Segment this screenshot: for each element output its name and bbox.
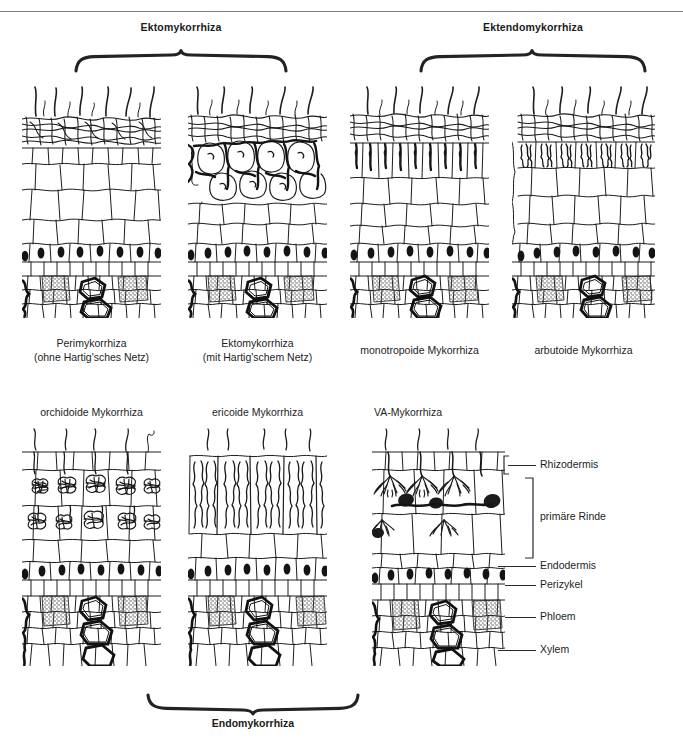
panel-va-mykorrhiza: [372, 428, 505, 666]
caption-orchidoide-mykorrhiza: orchidoide Mykorrhiza: [22, 406, 161, 420]
panel-ektomykorrhiza: [188, 86, 327, 318]
caption-line1: VA-Mykorrhiza: [374, 406, 442, 418]
figure-canvas: Ektomykorrhiza Ektendomykorrhiza: [0, 0, 683, 741]
perizykel-leader: [505, 585, 536, 586]
group-label-ektomykorrhiza: Ektomykorrhiza: [75, 21, 287, 33]
caption-line1: monotropoide Mykorrhiza: [360, 344, 478, 356]
caption-monotropoide-mykorrhiza: monotropoide Mykorrhiza: [348, 344, 491, 358]
brace-ektomykorrhiza: [74, 50, 288, 72]
group-label-ektendomykorrhiza: Ektendomykorrhiza: [420, 21, 646, 33]
label-primaere-rinde: primäre Rinde: [540, 510, 606, 522]
panel-ericoide: [188, 428, 327, 666]
caption-va-mykorrhiza: VA-Mykorrhiza: [348, 406, 468, 420]
hyphal-coils: [521, 144, 651, 167]
panel-monotropoide-mykorrhiza: [350, 86, 489, 318]
phloem-leader: [505, 617, 536, 618]
header-ghost-text: [537, 0, 677, 9]
vesicles: [372, 492, 502, 539]
xylem-leader: [498, 650, 536, 651]
caption-line1: arbutoide Mykorrhiza: [534, 344, 632, 356]
label-rhizodermis: Rhizodermis: [540, 458, 598, 470]
caption-line1: Ektomykorrhiza: [221, 337, 293, 349]
caption-arbutoide-mykorrhiza: arbutoide Mykorrhiza: [512, 344, 655, 358]
caption-line1: orchidoide Mykorrhiza: [40, 406, 143, 418]
caption-ektomykorrhiza: Ektomykorrhiza (mit Hartig'schem Netz): [188, 337, 327, 364]
endodermis-leader: [498, 566, 536, 567]
header-rule: [0, 11, 683, 12]
wavy-hyphae: [193, 461, 324, 528]
primaere-rinde-bracket: [524, 477, 536, 559]
caption-line2: (ohne Hartig'sches Netz): [22, 351, 161, 365]
label-xylem: Xylem: [540, 643, 569, 655]
caption-line1: Perimykorrhiza: [56, 337, 126, 349]
caption-ericoide-mykorrhiza: ericoide Mykorrhiza: [188, 406, 327, 420]
xylem-lateral: [22, 280, 29, 318]
label-phloem: Phloem: [540, 610, 576, 622]
label-endodermis: Endodermis: [540, 559, 596, 571]
label-perizykel: Perizykel: [540, 578, 583, 590]
group-label-endomykorrhiza: Endomykorrhiza: [146, 717, 360, 729]
pelotons: [28, 475, 160, 529]
brace-endomykorrhiza: [146, 694, 360, 714]
caption-line1: ericoide Mykorrhiza: [212, 406, 303, 418]
panel-perimykorrhiza: [22, 86, 161, 318]
caption-perimykorrhiza: Perimykorrhiza (ohne Hartig'sches Netz): [22, 337, 161, 364]
caption-line2: (mit Hartig'schem Netz): [188, 351, 327, 365]
casparian-strips: [22, 245, 161, 261]
brace-ektendomykorrhiza: [419, 50, 647, 72]
panel-arbutoide-mykorrhiza: [512, 86, 655, 318]
panel-orchidoide: [22, 428, 161, 666]
rhizodermis-leader: [508, 465, 536, 466]
